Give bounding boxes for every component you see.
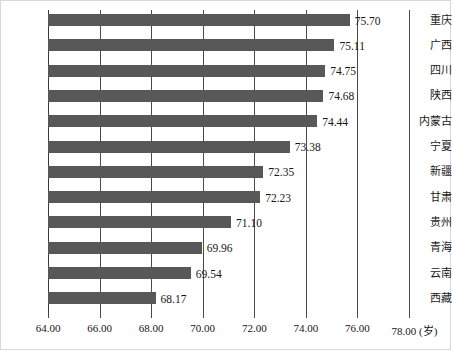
bar-宁夏: [48, 141, 290, 153]
value-label-宁夏: 73.38: [295, 141, 321, 153]
value-label-四川: 74.75: [330, 65, 356, 77]
x-tick-label-3: 70.00: [190, 322, 215, 334]
bar-内蒙古: [48, 115, 317, 127]
value-label-新疆: 72.35: [268, 166, 294, 178]
bar-新疆: [48, 166, 263, 178]
category-label-重庆: 重庆: [408, 15, 452, 27]
value-label-内蒙古: 74.44: [322, 116, 348, 128]
bar-贵州: [48, 216, 231, 228]
value-label-云南: 69.54: [196, 268, 222, 280]
category-label-陕西: 陕西: [408, 90, 452, 102]
gridline-74.00: [306, 10, 307, 313]
tick-mark-0: [48, 313, 49, 318]
tick-mark-1: [100, 313, 101, 318]
bar-青海: [48, 242, 202, 254]
tick-mark-2: [151, 313, 152, 318]
x-tick-label-7: 78.00 (岁): [392, 322, 438, 338]
value-label-陕西: 74.68: [328, 90, 354, 102]
tick-mark-5: [306, 313, 307, 318]
x-tick-label-4: 72.00: [242, 322, 267, 334]
bar-广西: [48, 39, 334, 51]
value-label-重庆: 75.70: [355, 15, 381, 27]
x-tick-label-6: 76.00: [345, 322, 370, 334]
category-label-云南: 云南: [408, 268, 452, 280]
category-label-新疆: 新疆: [408, 166, 452, 178]
tick-mark-6: [357, 313, 358, 318]
x-tick-label-5: 74.00: [293, 322, 318, 334]
tick-mark-3: [203, 313, 204, 318]
x-tick-label-1: 66.00: [87, 322, 112, 334]
category-label-贵州: 贵州: [408, 217, 452, 229]
bar-西藏: [48, 292, 156, 304]
category-label-内蒙古: 内蒙古: [408, 116, 452, 128]
bar-四川: [48, 65, 325, 77]
tick-mark-4: [254, 313, 255, 318]
bar-云南: [48, 267, 191, 279]
value-label-广西: 75.11: [339, 40, 364, 52]
category-label-西藏: 西藏: [408, 293, 452, 305]
gridline-76.00: [357, 10, 358, 313]
bar-甘肃: [48, 191, 260, 203]
category-label-四川: 四川: [408, 65, 452, 77]
value-label-西藏: 68.17: [161, 293, 187, 305]
bar-重庆: [48, 14, 350, 26]
life-expectancy-bar-chart: 重庆广西四川陕西内蒙古宁夏新疆甘肃贵州青海云南西藏 75.7075.1174.7…: [0, 0, 452, 351]
value-label-甘肃: 72.23: [265, 192, 291, 204]
category-label-宁夏: 宁夏: [408, 141, 452, 153]
category-label-青海: 青海: [408, 242, 452, 254]
x-tick-label-0: 64.00: [36, 322, 61, 334]
bar-陕西: [48, 90, 323, 102]
tick-mark-7: [409, 313, 410, 318]
gridline-72.00: [254, 10, 255, 313]
x-tick-label-2: 68.00: [139, 322, 164, 334]
value-label-贵州: 71.10: [236, 217, 262, 229]
value-label-青海: 69.96: [207, 242, 233, 254]
category-label-广西: 广西: [408, 40, 452, 52]
category-label-甘肃: 甘肃: [408, 192, 452, 204]
plot-area: [48, 10, 409, 313]
